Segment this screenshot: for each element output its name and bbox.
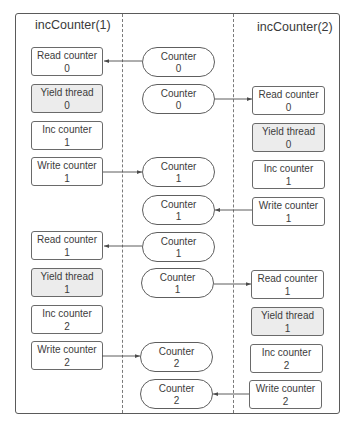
counter-state: Counter 0	[142, 47, 215, 77]
counter-value: 1	[143, 211, 214, 224]
counter-state: Counter 1	[142, 232, 215, 262]
left-step-read-counter: Read counter 0	[31, 47, 103, 76]
right-step-inc-counter: Inc counter 2	[250, 344, 323, 373]
step-value: 1	[32, 173, 102, 186]
counter-state: Counter 1	[142, 157, 215, 187]
counter-label: Counter	[141, 383, 212, 396]
left-step-read-counter: Read counter 1	[31, 231, 103, 260]
step-label: Read counter	[32, 50, 102, 63]
step-value: 1	[32, 284, 102, 297]
counter-value: 1	[142, 284, 213, 297]
step-label: Yield thread	[32, 87, 102, 100]
step-value: 0	[253, 139, 324, 152]
right-lane-title: incCounter(2)	[257, 20, 333, 34]
left-step-write-counter: Write counter 2	[31, 341, 103, 370]
lane-divider-right	[233, 14, 234, 413]
step-label: Inc counter	[253, 163, 324, 176]
step-value: 2	[250, 396, 321, 409]
counter-label: Counter	[143, 199, 214, 212]
step-label: Read counter	[252, 273, 323, 286]
step-label: Inc counter	[32, 308, 102, 321]
step-value: 2	[32, 357, 102, 370]
left-step-write-counter: Write counter 1	[31, 157, 103, 186]
step-value: 1	[252, 286, 323, 299]
step-label: Yield thread	[252, 310, 323, 323]
left-step-inc-counter: Inc counter 2	[31, 305, 103, 334]
counter-state: Counter 1	[142, 195, 215, 225]
right-step-write-counter: Write counter 2	[249, 380, 322, 409]
step-label: Yield thread	[253, 126, 324, 139]
step-label: Write counter	[32, 160, 102, 173]
counter-value: 1	[143, 248, 214, 261]
counter-value: 2	[141, 395, 212, 408]
step-value: 1	[253, 176, 324, 189]
right-step-yield-thread: Yield thread 0	[252, 123, 325, 152]
step-label: Inc counter	[32, 124, 102, 137]
counter-state: Counter 2	[140, 342, 213, 372]
counter-value: 0	[143, 100, 214, 113]
step-value: 0	[32, 100, 102, 113]
step-value: 1	[32, 137, 102, 150]
step-label: Read counter	[253, 89, 324, 102]
left-step-yield-thread: Yield thread 1	[31, 268, 103, 297]
left-step-inc-counter: Inc counter 1	[31, 121, 103, 150]
lane-divider-left	[122, 14, 123, 413]
step-value: 2	[32, 321, 102, 334]
counter-state: Counter 1	[141, 268, 214, 298]
counter-label: Counter	[143, 51, 214, 64]
counter-value: 2	[141, 358, 212, 371]
counter-state: Counter 2	[140, 379, 213, 409]
step-label: Yield thread	[32, 271, 102, 284]
step-value: 1	[252, 323, 323, 336]
counter-value: 1	[143, 173, 214, 186]
right-step-read-counter: Read counter 0	[252, 86, 325, 115]
counter-label: Counter	[143, 161, 214, 174]
step-label: Write counter	[253, 200, 324, 213]
left-step-yield-thread: Yield thread 0	[31, 84, 103, 113]
step-label: Write counter	[250, 383, 321, 396]
step-value: 1	[32, 247, 102, 260]
counter-label: Counter	[143, 236, 214, 249]
step-label: Read counter	[32, 234, 102, 247]
counter-label: Counter	[142, 272, 213, 285]
step-label: Inc counter	[251, 347, 322, 360]
right-step-inc-counter: Inc counter 1	[252, 160, 325, 189]
counter-label: Counter	[143, 88, 214, 101]
counter-label: Counter	[141, 346, 212, 359]
right-step-yield-thread: Yield thread 1	[251, 307, 324, 336]
step-value: 2	[251, 360, 322, 373]
counter-value: 0	[143, 63, 214, 76]
right-step-read-counter: Read counter 1	[251, 270, 324, 299]
step-label: Write counter	[32, 344, 102, 357]
counter-state: Counter 0	[142, 84, 215, 114]
step-value: 0	[253, 102, 324, 115]
step-value: 1	[253, 213, 324, 226]
left-lane-title: incCounter(1)	[35, 18, 111, 32]
step-value: 0	[32, 63, 102, 76]
right-step-write-counter: Write counter 1	[252, 197, 325, 226]
